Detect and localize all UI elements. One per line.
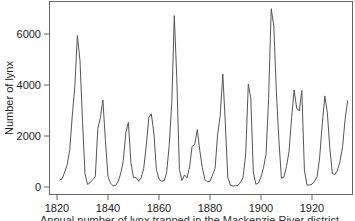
x-axis: 182018401860188019001920: [45, 195, 324, 215]
y-tick-label: 0: [35, 181, 41, 193]
lynx-line-chart: 0200040006000 182018401860188019001920 N…: [0, 0, 355, 221]
y-axis: 0200040006000: [17, 28, 50, 193]
figure-caption: Annual number of lynx trapped in the Mac…: [40, 214, 339, 221]
x-tick-label: 1840: [96, 202, 120, 214]
x-tick-label: 1920: [300, 202, 324, 214]
x-tick-label: 1860: [147, 202, 171, 214]
x-tick-label: 1820: [45, 202, 69, 214]
y-tick-label: 4000: [17, 79, 41, 91]
plot-frame: [50, 2, 353, 195]
x-tick-label: 1880: [198, 202, 222, 214]
lynx-series-line: [60, 9, 348, 186]
y-tick-label: 6000: [17, 28, 41, 40]
y-axis-title: Number of lynx: [3, 61, 15, 135]
x-tick-label: 1900: [249, 202, 273, 214]
y-tick-label: 2000: [17, 130, 41, 142]
